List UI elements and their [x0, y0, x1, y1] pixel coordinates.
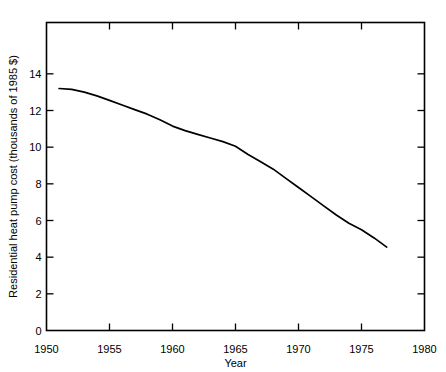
y-tick-label: 12 — [29, 105, 41, 117]
chart-background — [0, 0, 446, 372]
y-tick-label: 6 — [35, 215, 41, 227]
y-tick-label: 2 — [35, 288, 41, 300]
y-tick-label: 10 — [29, 141, 41, 153]
line-chart: 1950195519601965197019751980 02468101214… — [0, 0, 446, 372]
y-axis-title: Residential heat pump cost (thousands of… — [7, 55, 19, 298]
y-tick-label: 4 — [35, 251, 41, 263]
y-tick-label: 0 — [35, 325, 41, 337]
x-tick-label: 1980 — [412, 343, 436, 355]
x-tick-label: 1955 — [97, 343, 121, 355]
x-tick-label: 1970 — [286, 343, 310, 355]
x-axis-title: Year — [224, 357, 247, 369]
x-tick-label: 1975 — [349, 343, 373, 355]
x-tick-label: 1960 — [160, 343, 184, 355]
x-tick-label: 1965 — [223, 343, 247, 355]
chart-figure: 1950195519601965197019751980 02468101214… — [0, 0, 446, 372]
y-tick-label: 8 — [35, 178, 41, 190]
x-tick-label: 1950 — [34, 343, 58, 355]
y-tick-label: 14 — [29, 68, 41, 80]
